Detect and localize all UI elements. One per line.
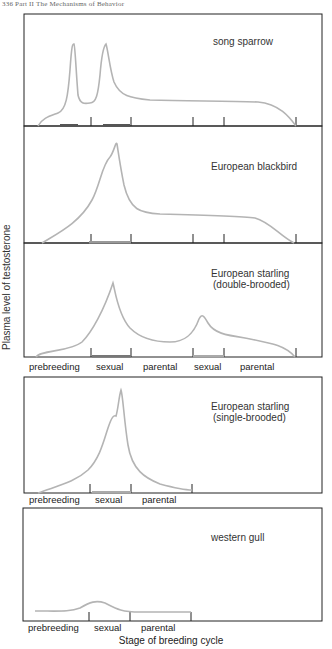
stage-label: parental [240,361,274,372]
panel-western-gull [23,508,322,621]
curve-european-blackbird [42,143,294,243]
curve-starling-double [36,283,295,357]
label-western-gull: western gull [210,532,264,543]
panel-frame [24,377,322,493]
panel-starling-single [24,377,322,493]
stage-label: prebreeding [29,494,80,505]
stage-label: sexual [95,494,122,505]
stage-label: prebreeding [29,361,80,372]
stage-label: sexual [194,361,221,372]
label-starling-double-line1: European starling [211,268,289,279]
label-song-sparrow: song sparrow [213,36,274,47]
panel-frame [24,243,322,357]
label-starling-double-line2: (double-brooded) [213,279,290,290]
panel-song-sparrow [24,14,322,126]
panel-starling-double [24,243,322,357]
label-starling-single-line2: (single-brooded) [213,412,286,423]
curve-starling-single [38,390,192,493]
curve-song-sparrow [38,44,296,126]
y-axis-label: Plasma level of testosterone [1,224,12,350]
stage-label: sexual [96,361,123,372]
testosterone-curves [35,44,296,612]
stage-label: prebreeding [28,622,79,633]
stage-label: parental [141,622,175,633]
stage-label: parental [143,361,177,372]
curve-western-gull [35,602,191,612]
sexual-phase-bars [60,124,224,494]
label-european-blackbird: European blackbird [211,161,297,172]
testosterone-chart: song sparrow European blackbird European… [0,0,332,649]
x-axis-label: Stage of breeding cycle [0,635,332,646]
label-starling-single-line1: European starling [211,401,289,412]
panel-frame [23,508,322,621]
stage-label: parental [142,494,176,505]
stage-label: sexual [94,622,121,633]
panel-frame [24,14,322,126]
